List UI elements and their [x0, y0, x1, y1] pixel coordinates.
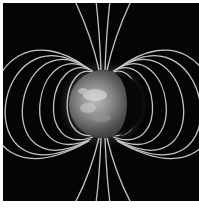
magnetic-field-illustration	[3, 3, 199, 201]
field-lines-graphic	[3, 3, 199, 201]
